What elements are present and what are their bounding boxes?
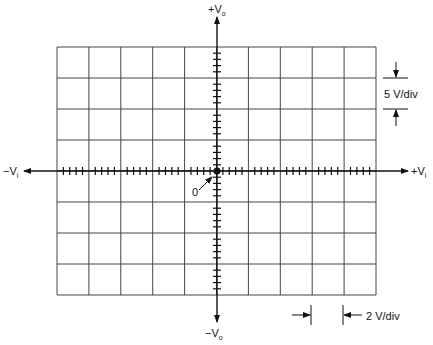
label-subscript: o <box>219 334 223 341</box>
horizontal-scale-indicator <box>292 305 362 325</box>
label-vertical-scale: 5 V/div <box>384 88 418 100</box>
label-plus-vi: +Vi <box>411 165 426 182</box>
label-subscript: o <box>222 10 226 17</box>
label-minus-vo: −Vo <box>205 327 223 344</box>
label-plus-vo: +Vo <box>208 3 226 20</box>
label-horizontal-scale: 2 V/div <box>366 310 400 322</box>
label-text: +V <box>411 165 425 177</box>
label-text: −V <box>205 327 219 339</box>
label-subscript: i <box>425 172 427 179</box>
origin-pointer <box>199 177 212 190</box>
origin-dot <box>214 168 221 175</box>
label-text: +V <box>208 3 222 15</box>
graticule <box>0 0 433 345</box>
label-minus-vi: −Vi <box>3 165 18 182</box>
label-subscript: i <box>17 172 19 179</box>
label-origin: 0 <box>192 186 198 198</box>
label-text: −V <box>3 165 17 177</box>
